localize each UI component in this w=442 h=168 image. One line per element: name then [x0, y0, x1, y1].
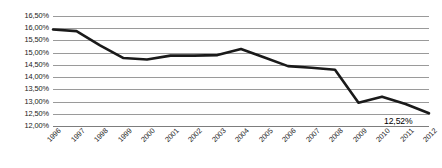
line-chart: 16,50%16,00%15,50%15,00%14,50%14,00%13,5…	[0, 0, 442, 168]
x-axis-tick-label: 1998	[83, 127, 109, 153]
y-axis-tick-label: 14,50%	[25, 61, 49, 68]
series-polyline	[53, 29, 429, 113]
y-axis-tick-label: 13,00%	[25, 98, 49, 105]
y-axis-tick-label: 12,50%	[25, 110, 49, 117]
x-axis-tick-label: 2000	[130, 127, 156, 153]
plot-area	[53, 16, 429, 126]
series-line	[53, 16, 429, 126]
y-axis-tick-label: 13,50%	[25, 86, 49, 93]
x-axis: 1996199719981999200020012002200320042005…	[53, 127, 429, 168]
y-axis-tick-label: 15,00%	[25, 49, 49, 56]
data-label-2012: 12,52%	[384, 116, 413, 126]
x-axis-tick-label: 2006	[271, 127, 297, 153]
x-axis-tick-label: 1999	[106, 127, 132, 153]
y-axis-tick-label: 12,00%	[25, 122, 49, 129]
x-axis-tick-label: 2009	[341, 127, 367, 153]
x-axis-tick-label: 2010	[365, 127, 391, 153]
x-axis-tick-label: 2007	[294, 127, 320, 153]
x-axis-tick-label: 2001	[153, 127, 179, 153]
y-axis-tick-label: 16,00%	[25, 25, 49, 32]
x-axis-tick-label: 2005	[247, 127, 273, 153]
x-axis-tick-label: 2011	[388, 127, 414, 153]
x-axis-tick-label: 1997	[59, 127, 85, 153]
y-axis-tick-label: 16,50%	[25, 12, 49, 19]
y-axis-tick-label: 15,50%	[25, 37, 49, 44]
y-axis-tick-label: 14,00%	[25, 73, 49, 80]
x-axis-tick-label: 2004	[224, 127, 250, 153]
x-axis-tick-label: 2003	[200, 127, 226, 153]
x-axis-tick-label: 2002	[177, 127, 203, 153]
x-axis-tick-label: 2012	[412, 127, 438, 153]
x-axis-tick-label: 2008	[318, 127, 344, 153]
